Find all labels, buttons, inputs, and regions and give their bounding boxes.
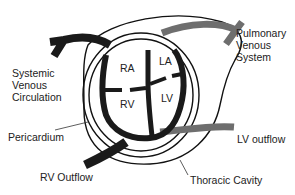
label-rv-outflow: RV Outflow xyxy=(40,171,93,183)
pulmonary-vein xyxy=(162,22,242,44)
label-systemic-venous: Systemic Venous Circulation xyxy=(12,67,62,103)
label-lv-outflow: LV outflow xyxy=(237,133,285,145)
heart-circulation-diagram: RA LA RV LV Systemic Venous Circulation … xyxy=(0,0,295,195)
av-plane-left xyxy=(150,74,182,84)
systemic-vein xyxy=(50,37,110,56)
septum xyxy=(148,50,152,136)
label-pulmonary-venous: Pulmonary Venous System xyxy=(236,27,286,63)
av-plane-right xyxy=(104,88,146,90)
label-pericardium: Pericardium xyxy=(8,131,64,143)
chamber-rv: RV xyxy=(120,98,134,110)
chamber-la: LA xyxy=(159,55,172,67)
chamber-lv: LV xyxy=(161,92,173,104)
label-thoracic-cavity: Thoracic Cavity xyxy=(190,174,262,186)
chamber-ra: RA xyxy=(120,62,135,74)
